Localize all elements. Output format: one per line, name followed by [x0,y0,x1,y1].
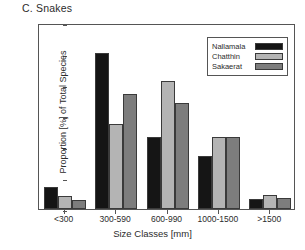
bar [198,156,212,209]
x-axis-title: Size Classes [mm] [0,228,305,239]
bar [95,53,109,209]
bar [175,103,189,209]
bar [249,199,263,209]
x-tick-label: 300-590 [99,214,130,224]
snakes-bar-chart-figure: C. Snakes 0102030405060 Proportion [%] o… [0,0,305,250]
x-tick-label: >1500 [257,214,281,224]
bar [147,137,161,209]
legend-item-label: Nallamala [212,42,245,51]
legend-item: Nallamala [212,42,283,51]
bar [44,187,58,209]
bar [263,195,277,209]
bar [277,198,291,209]
bar [109,124,123,209]
legend-item: Chatthin [212,52,283,61]
x-tick-label: 600-990 [151,214,182,224]
legend-swatch [255,53,283,60]
bar [226,137,240,209]
legend-item-label: Chatthin [212,52,240,61]
legend-swatch [255,43,283,50]
legend-item-label: Sakaerat [212,62,242,71]
y-axis-title: Proportion [%] of Total Species [58,22,68,202]
legend-swatch [255,63,283,70]
page-title: C. Snakes [22,2,72,14]
bar [161,81,175,209]
legend-item: Sakaerat [212,62,283,71]
x-tick-label: <300 [54,214,73,224]
bar [72,200,86,209]
bar [212,137,226,209]
x-tick-label: 1000-1500 [198,214,239,224]
chart-legend: NallamalaChatthinSakaerat [207,37,288,76]
bar [123,94,137,209]
